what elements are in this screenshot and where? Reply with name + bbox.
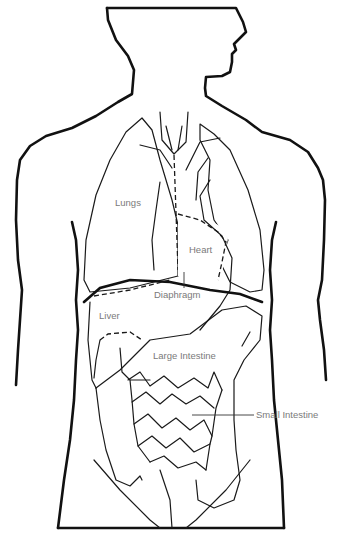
label-heart: Heart [189, 244, 213, 255]
label-large-intestine: Large Intestine [153, 350, 216, 361]
label-small-intestine: Small Intestine [256, 409, 318, 420]
label-diaphragm: Diaphragm [154, 289, 201, 300]
body-outline [16, 8, 326, 528]
label-liver: Liver [99, 310, 120, 321]
torso-anatomy-diagram: Lungs Heart Diaphragm Liver Large Intest… [0, 0, 339, 539]
heart [178, 180, 232, 330]
large-intestine [94, 306, 262, 528]
small-intestine [128, 372, 222, 470]
lungs [84, 112, 264, 292]
label-lungs: Lungs [115, 197, 141, 208]
